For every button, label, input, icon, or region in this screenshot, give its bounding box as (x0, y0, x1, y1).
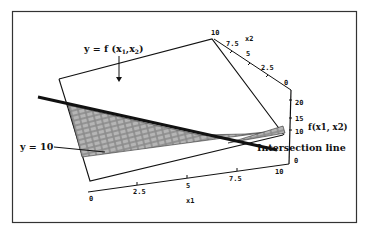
x2-tick-5: 5 (246, 50, 250, 58)
z-axis-label: f(x1, x2) (308, 122, 348, 133)
surface-label: y = f (x1,x2) (83, 43, 144, 55)
x2-tick-7-5: 7.5 (226, 40, 239, 48)
x1-tick-0: 0 (89, 195, 93, 203)
x1-axis-label: x1 (186, 197, 194, 205)
surface-arrowhead (116, 77, 122, 82)
x2-axis-label: x2 (245, 35, 253, 43)
x1-tick-5: 5 (186, 182, 190, 190)
intersection-label: Intersection line (257, 142, 346, 153)
x1-tick-7-5: 7.5 (229, 175, 242, 183)
x2-tick-10: 10 (211, 29, 219, 37)
x1-tick-10: 10 (275, 168, 283, 176)
x1-tick-2-5: 2.5 (133, 188, 146, 196)
x2-tick-0: 0 (284, 79, 288, 87)
plane-label: y = 10 (19, 141, 54, 152)
z-tick-20: 20 (295, 99, 303, 107)
diagram-figure: 10 7.5 5 2.5 0 x2 20 15 10 0 f(x1, x2) 0… (0, 0, 368, 233)
z-tick-15: 15 (295, 115, 303, 123)
x2-tick-2-5: 2.5 (261, 64, 274, 72)
z-tick-0: 0 (294, 157, 298, 165)
z-tick-10: 10 (295, 128, 303, 136)
figure-frame (13, 12, 357, 223)
hatched-region (68, 105, 276, 157)
